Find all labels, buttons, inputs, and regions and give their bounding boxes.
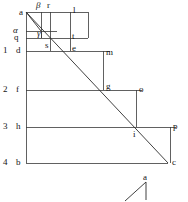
row-number-2: 2 [3,85,8,94]
point-label-a: a [19,8,23,17]
point-label-gamma: γ [37,29,41,38]
point-label-beta: β [36,1,40,10]
angle-inset-figure [125,182,146,201]
row-number-1: 1 [3,46,8,55]
point-label-q: q [14,33,19,42]
point-label-m: m [106,48,113,57]
point-label-c: c [172,158,176,167]
diagonal-lines [26,12,168,163]
point-label-o: o [139,85,144,94]
main-diagonal-a-to-c [26,12,168,163]
point-label-e: e [72,44,76,53]
point-label-f: f [16,85,19,94]
grid-lines [26,12,176,163]
point-label-s: s [45,41,49,50]
inset-label-a: a [143,173,147,182]
point-label-d: d [16,46,21,55]
point-label-h: h [16,122,21,131]
point-label-g: g [106,82,111,91]
row-number-3: 3 [3,122,8,131]
point-label-p: p [173,122,178,131]
point-label-r: r [47,1,50,10]
point-label-i: i [133,130,136,139]
row-number-4: 4 [3,158,8,167]
geometric-figure [0,0,188,202]
point-label-t: t [72,32,75,41]
inset-diagonal-leg [125,182,146,201]
point-label-l: l [73,6,76,15]
point-label-b: b [16,158,21,167]
